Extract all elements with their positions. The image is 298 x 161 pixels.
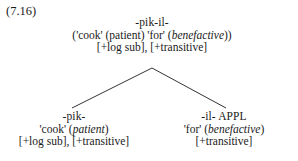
- left-daughter-gloss: 'cook' (patient): [0, 123, 148, 136]
- branch-right: [152, 68, 226, 108]
- left-daughter-form: -pik-: [0, 110, 148, 123]
- left-daughter-gloss-part-2: patient: [73, 123, 105, 135]
- right-daughter-gloss-part-1: 'for' (: [184, 123, 208, 135]
- left-daughter-gloss-part-1: 'cook' (: [40, 123, 73, 135]
- tree-node-root: -pik-il- ('cook' (patient) 'for' (benefa…: [28, 16, 276, 54]
- left-daughter-features: [+log sub], [+transitive]: [0, 135, 148, 148]
- right-daughter-gloss-part-2: benefactive: [208, 123, 260, 135]
- linguistic-tree-figure: (7.16) -pik-il- ('cook' (patient) 'for' …: [0, 0, 298, 161]
- right-daughter-features: [+transitive]: [150, 135, 298, 148]
- branch-left: [72, 68, 152, 108]
- root-gloss-part-3: )): [224, 29, 232, 41]
- right-daughter-gloss-part-3: ): [260, 123, 264, 135]
- left-daughter-gloss-part-3: ): [105, 123, 109, 135]
- tree-node-left-daughter: -pik- 'cook' (patient) [+log sub], [+tra…: [0, 110, 148, 148]
- root-gloss-part-1: ('cook' (patient) 'for' (: [72, 29, 171, 41]
- root-gloss: ('cook' (patient) 'for' (benefactive)): [28, 29, 276, 42]
- right-daughter-gloss: 'for' (benefactive): [150, 123, 298, 136]
- right-daughter-form: -il- APPL: [150, 110, 298, 123]
- root-form: -pik-il-: [28, 16, 276, 29]
- root-features: [+log sub], [+transitive]: [28, 41, 276, 54]
- tree-node-right-daughter: -il- APPL 'for' (benefactive) [+transiti…: [150, 110, 298, 148]
- root-gloss-part-2: benefactive: [172, 29, 224, 41]
